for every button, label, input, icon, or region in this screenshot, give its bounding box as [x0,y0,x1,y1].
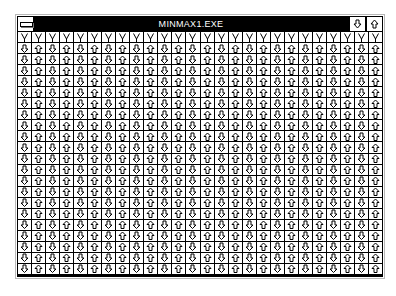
grid-cell [88,231,101,241]
grid-cell [88,98,101,108]
grid-cell [46,220,59,230]
grid-cell [369,209,382,219]
grid-cell [144,198,157,208]
arrow-down-icon [357,66,366,75]
grid-cell [243,98,256,108]
arrow-up-icon [259,242,268,251]
grid-cell [313,154,326,164]
arrow-up-icon [315,242,324,251]
grid-cell [46,54,59,64]
grid-cell [144,187,157,197]
grid-cell [130,242,143,252]
arrow-down-icon [160,88,169,97]
grid-cell [116,87,129,97]
arrow-down-icon [48,264,57,273]
arrow-down-icon [132,110,141,119]
arrow-down-icon [301,253,310,262]
grid-cell [60,264,73,274]
arrow-up-icon [371,253,380,262]
arrow-up-icon [315,44,324,53]
grid-cell [299,120,312,130]
grid-cell [327,142,340,152]
grid-cell [201,231,214,241]
arrow-down-icon [245,121,254,130]
arrow-down-icon [48,55,57,64]
arrow-down-icon [48,132,57,141]
arrow-up-icon [62,44,71,53]
arrow-down-icon [104,99,113,108]
arrow-down-icon [329,110,338,119]
grid-cell [355,176,368,186]
grid-cell [215,165,228,175]
grid-cell [46,154,59,164]
grid-cell [116,231,129,241]
arrow-up-icon [203,110,212,119]
title-bar[interactable]: MINMAX1.EXE [18,17,382,32]
grid-cell [32,131,45,141]
grid-cell [32,43,45,53]
grid-cell [172,231,185,241]
arrow-up-icon [371,231,380,240]
arrow-up-icon [34,132,43,141]
arrow-down-icon [20,154,29,163]
grid-cell [215,109,228,119]
arrow-up-icon [203,44,212,53]
grid-cell [144,32,157,42]
grid-cell [88,264,101,274]
arrow-up-icon [174,132,183,141]
maximize-button[interactable] [366,17,382,31]
grid-cell [130,176,143,186]
grid-cell [341,98,354,108]
grid-cell [172,109,185,119]
arrow-down-icon [20,121,29,130]
grid-cell [172,198,185,208]
arrow-up-icon [259,264,268,273]
grid-cell [369,165,382,175]
arrow-up-icon [231,143,240,152]
grid-cell [116,65,129,75]
grid-cell [130,87,143,97]
grid-cell [60,154,73,164]
minimize-button[interactable] [349,17,365,31]
grid-cell [60,76,73,86]
grid-cell [74,187,87,197]
grid-cell [144,54,157,64]
arrow-up-icon [259,253,268,262]
arrow-up-icon [259,154,268,163]
grid-cell [327,54,340,64]
grid-cell [18,131,31,141]
grid-cell [285,253,298,263]
arrow-up-icon [34,231,43,240]
arrow-up-icon [90,143,99,152]
grid-cell [285,54,298,64]
arrow-down-icon [188,55,197,64]
arrow-up-icon [90,242,99,251]
arrow-up-icon [34,143,43,152]
system-menu-button[interactable] [18,17,34,31]
grid-cell [158,187,171,197]
grid-cell [158,165,171,175]
grid-cell [355,154,368,164]
arrow-down-icon [76,253,85,262]
arrow-up-icon [174,209,183,218]
grid-cell [32,264,45,274]
arrow-up-icon [259,132,268,141]
grid-cell [60,209,73,219]
arrow-down-icon [20,176,29,185]
grid-cell [144,142,157,152]
grid-cell [215,43,228,53]
grid-cell [74,264,87,274]
grid-cell [88,54,101,64]
grid-cell [18,120,31,130]
grid-cell [299,242,312,252]
grid-cell [144,87,157,97]
arrow-down-icon [329,198,338,207]
grid-cell [74,76,87,86]
grid-cell [32,154,45,164]
arrow-down-icon [104,187,113,196]
grid-cell [144,231,157,241]
grid-cell [271,176,284,186]
grid-cell [243,32,256,42]
grid-cell [257,176,270,186]
arrow-up-icon [287,242,296,251]
